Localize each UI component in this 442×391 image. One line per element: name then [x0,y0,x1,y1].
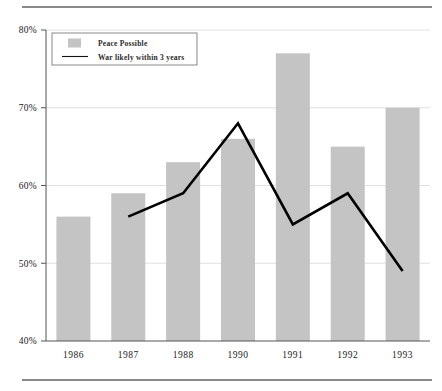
y-tick-marks-group [41,30,46,341]
chart-legend: Peace Possible War likely within 3 years [52,33,197,65]
bottom-divider-rule [22,379,432,381]
y-tick-label: 80% [19,25,37,35]
x-tick-label-1988: 1988 [173,350,194,360]
bar-line-chart: 80%70%60%50%40% 198619871988199019911992… [0,14,442,374]
plot-area-wrapper: 80%70%60%50%40% 198619871988199019911992… [0,14,442,374]
legend-label-war-likely: War likely within 3 years [98,53,185,62]
x-tick-label-1992: 1992 [337,350,358,360]
y-tick-label: 60% [19,181,37,191]
bars-group [56,53,419,341]
top-divider-rule [22,6,432,8]
y-tick-label: 50% [19,259,37,269]
bar-1988 [166,162,200,341]
x-tick-label-1986: 1986 [63,350,84,360]
x-tick-label-1987: 1987 [118,350,139,360]
chart-figure: 80%70%60%50%40% 198619871988199019911992… [0,0,442,391]
legend-swatch-peace-possible [68,39,81,48]
bar-1986 [56,217,90,341]
x-tick-labels-group: 1986198719881990199119921993 [63,350,413,360]
bar-1990 [221,139,255,341]
bar-1991 [276,53,310,341]
bar-1993 [386,108,420,341]
y-tick-labels-group: 80%70%60%50%40% [19,25,37,346]
x-tick-label-1991: 1991 [282,350,303,360]
legend-label-peace-possible: Peace Possible [98,39,148,48]
x-tick-label-1993: 1993 [392,350,413,360]
x-tick-label-1990: 1990 [228,350,249,360]
y-tick-label: 40% [19,336,37,346]
bar-1992 [331,147,365,341]
y-tick-label: 70% [19,103,37,113]
